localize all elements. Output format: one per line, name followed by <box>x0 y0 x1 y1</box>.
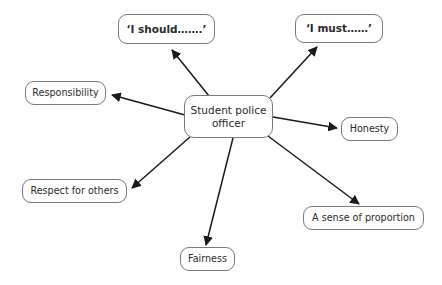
node-label: ‘I must……’ <box>304 22 374 35</box>
node-responsibility[interactable]: Responsibility <box>25 81 106 105</box>
node-a-sense-of-proportion[interactable]: A sense of proportion <box>303 206 424 230</box>
node-label: A sense of proportion <box>310 212 417 224</box>
node-label: Student police officer <box>189 104 269 130</box>
node-student-police-officer[interactable]: Student police officer <box>184 95 273 138</box>
node-honesty[interactable]: Honesty <box>341 117 398 141</box>
diagram-canvas: ‘I should…….’ ‘I must……’ Responsibility … <box>0 0 442 285</box>
edge-center-proportion <box>268 136 359 204</box>
edge-center-respect <box>132 137 190 188</box>
node-label: Respect for others <box>28 185 120 197</box>
node-label: Responsibility <box>30 87 100 99</box>
node-i-should[interactable]: ‘I should…….’ <box>118 14 215 44</box>
edge-center-should <box>172 50 209 96</box>
node-fairness[interactable]: Fairness <box>180 247 235 271</box>
edge-center-honesty <box>273 117 337 128</box>
node-label: Honesty <box>348 123 392 135</box>
edge-center-responsibility <box>112 95 185 115</box>
node-respect-for-others[interactable]: Respect for others <box>22 179 127 203</box>
node-i-must[interactable]: ‘I must……’ <box>295 14 383 43</box>
edge-center-fairness <box>206 138 233 245</box>
node-label: ‘I should…….’ <box>124 23 208 36</box>
node-label: Fairness <box>186 253 229 265</box>
edge-center-must <box>270 47 317 98</box>
